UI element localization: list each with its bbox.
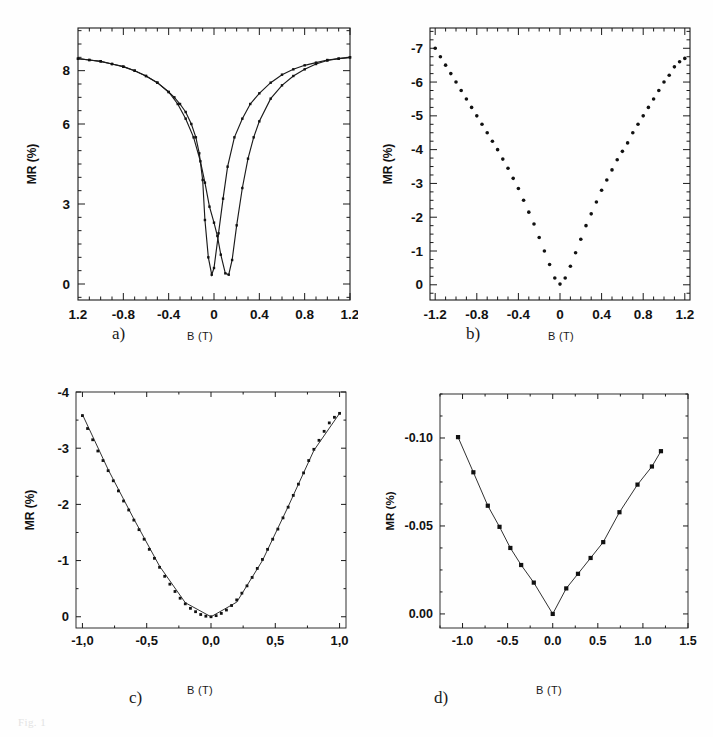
svg-text:1.2: 1.2	[341, 307, 358, 322]
panel-b: -1.2-0.8-0.400.40.81.20-1-2-3-4-5-6-7MR …	[378, 14, 698, 344]
svg-text:0.00: 0.00	[409, 607, 433, 621]
svg-text:-2: -2	[411, 210, 423, 225]
svg-text:1,0: 1,0	[331, 633, 349, 648]
panel-d: -1.0-0.50.00.51.01.50.00-0.05-0.10MR (%)	[378, 380, 698, 670]
svg-text:MR (%): MR (%)	[384, 491, 396, 530]
panel-b-x-axis-title: B (T)	[548, 330, 574, 342]
svg-text:0.5: 0.5	[589, 634, 606, 648]
panel-c-letter: c)	[129, 688, 142, 708]
svg-text:3: 3	[62, 197, 70, 212]
svg-text:-0.8: -0.8	[112, 307, 136, 322]
svg-text:-5: -5	[411, 108, 423, 123]
svg-text:-1: -1	[57, 553, 69, 568]
svg-text:-4: -4	[57, 385, 69, 400]
svg-text:-1,0: -1,0	[71, 633, 93, 648]
svg-text:MR (%): MR (%)	[25, 144, 39, 185]
svg-text:-0.4: -0.4	[507, 307, 531, 322]
svg-text:0: 0	[556, 307, 564, 322]
panel-c-x-axis-title: B (T)	[187, 684, 213, 696]
svg-text:0,0: 0,0	[202, 633, 220, 648]
svg-text:-0.8: -0.8	[465, 307, 489, 322]
panel-a: 1.2-0.8-0.400.40.81.20368MR (%)	[18, 14, 358, 344]
svg-text:0.8: 0.8	[634, 307, 653, 322]
svg-text:0: 0	[62, 609, 69, 624]
svg-text:0: 0	[62, 277, 70, 292]
svg-text:-4: -4	[411, 142, 423, 157]
svg-text:-0.5: -0.5	[497, 634, 519, 648]
svg-text:MR (%): MR (%)	[23, 490, 37, 531]
panel-b-letter: b)	[466, 324, 480, 344]
svg-text:0.4: 0.4	[592, 307, 611, 322]
svg-text:0: 0	[415, 277, 423, 292]
svg-text:-0.10: -0.10	[405, 431, 434, 445]
panel-a-plot: 1.2-0.8-0.400.40.81.20368MR (%)	[18, 14, 358, 344]
panel-a-letter: a)	[112, 324, 125, 344]
figure-sheet: 1.2-0.8-0.400.40.81.20368MR (%) a) B (T)…	[0, 0, 713, 737]
svg-text:-2: -2	[57, 497, 69, 512]
svg-text:0: 0	[210, 307, 218, 322]
svg-text:-7: -7	[411, 41, 423, 56]
svg-text:1.0: 1.0	[634, 634, 651, 648]
svg-text:-6: -6	[411, 75, 423, 90]
panel-a-x-axis-title: B (T)	[187, 330, 213, 342]
svg-text:-1: -1	[411, 244, 423, 259]
figure-caption-fragment: Fig. 1	[18, 716, 46, 728]
panel-d-x-axis-title: B (T)	[536, 684, 562, 696]
svg-text:-0.05: -0.05	[405, 519, 434, 533]
svg-text:-1.2: -1.2	[424, 307, 447, 322]
panel-c-plot: -1,0-0,50,00,51,00-1-2-3-4MR (%)	[18, 380, 358, 670]
svg-text:0.0: 0.0	[544, 634, 561, 648]
svg-text:1.5: 1.5	[679, 634, 696, 648]
svg-text:0,5: 0,5	[266, 633, 284, 648]
panel-d-plot: -1.0-0.50.00.51.01.50.00-0.05-0.10MR (%)	[378, 380, 698, 670]
svg-text:1.2: 1.2	[69, 307, 88, 322]
panel-c: -1,0-0,50,00,51,00-1-2-3-4MR (%)	[18, 380, 358, 670]
svg-text:-1.0: -1.0	[452, 634, 474, 648]
svg-text:8: 8	[62, 63, 70, 78]
svg-text:1.2: 1.2	[675, 307, 694, 322]
svg-text:0.4: 0.4	[250, 307, 269, 322]
svg-text:-0,5: -0,5	[136, 633, 158, 648]
svg-text:-3: -3	[57, 441, 69, 456]
svg-text:6: 6	[62, 117, 70, 132]
svg-text:0.8: 0.8	[295, 307, 314, 322]
svg-text:-3: -3	[411, 176, 423, 191]
svg-text:-0.4: -0.4	[157, 307, 181, 322]
panel-d-letter: d)	[434, 688, 448, 708]
panel-b-plot: -1.2-0.8-0.400.40.81.20-1-2-3-4-5-6-7MR …	[378, 14, 698, 344]
svg-text:MR (%): MR (%)	[381, 144, 395, 185]
